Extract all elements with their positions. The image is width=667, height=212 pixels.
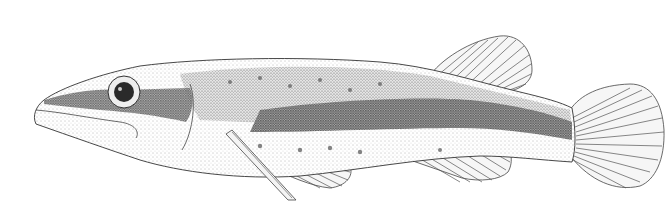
caudal-fin — [570, 84, 664, 188]
fish-drawing — [0, 0, 667, 212]
fish-illustration — [0, 0, 667, 212]
eye — [108, 76, 140, 108]
